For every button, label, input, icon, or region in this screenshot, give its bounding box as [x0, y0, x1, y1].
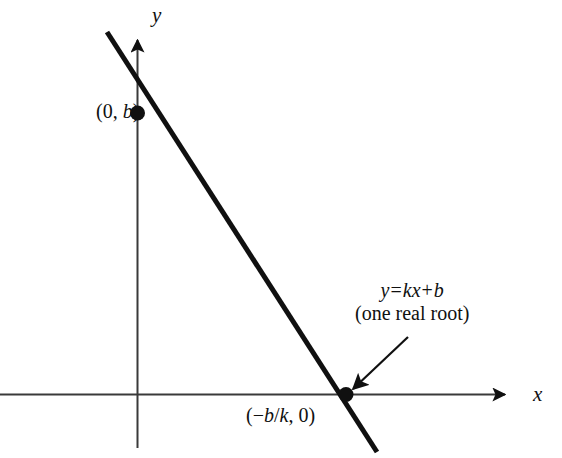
equation-annotation: y=kx+b (one real root) — [355, 279, 469, 325]
equation-note: (one real root) — [355, 302, 469, 325]
x-intercept-rest: , 0) — [288, 404, 315, 426]
graph-canvas — [0, 0, 562, 458]
equation-k: k — [403, 279, 412, 301]
x-intercept-open: ( — [246, 404, 253, 426]
equation-b: b — [434, 279, 444, 301]
equation-plus: + — [421, 279, 434, 301]
x-intercept-label: (−b/k, 0) — [246, 404, 315, 427]
y-intercept-close: ) — [133, 100, 140, 122]
x-intercept-b: b — [264, 404, 274, 426]
x-intercept-minus: − — [253, 404, 264, 426]
equation-x: x — [412, 279, 421, 301]
y-intercept-label: (0, b) — [96, 100, 139, 123]
y-axis-label: y — [152, 3, 161, 27]
equation-text: y=kx+b — [355, 279, 469, 302]
x-intercept-point — [339, 387, 354, 402]
equation-equals: = — [389, 279, 402, 301]
line-graph-figure: y x (0, b) (−b/k, 0) y=kx+b (one real ro… — [0, 0, 562, 458]
annotation-arrow — [353, 337, 408, 389]
x-axis-label: x — [533, 382, 542, 406]
y-intercept-open: (0, — [96, 100, 123, 122]
y-intercept-b: b — [123, 100, 133, 122]
plotted-line — [107, 32, 377, 452]
